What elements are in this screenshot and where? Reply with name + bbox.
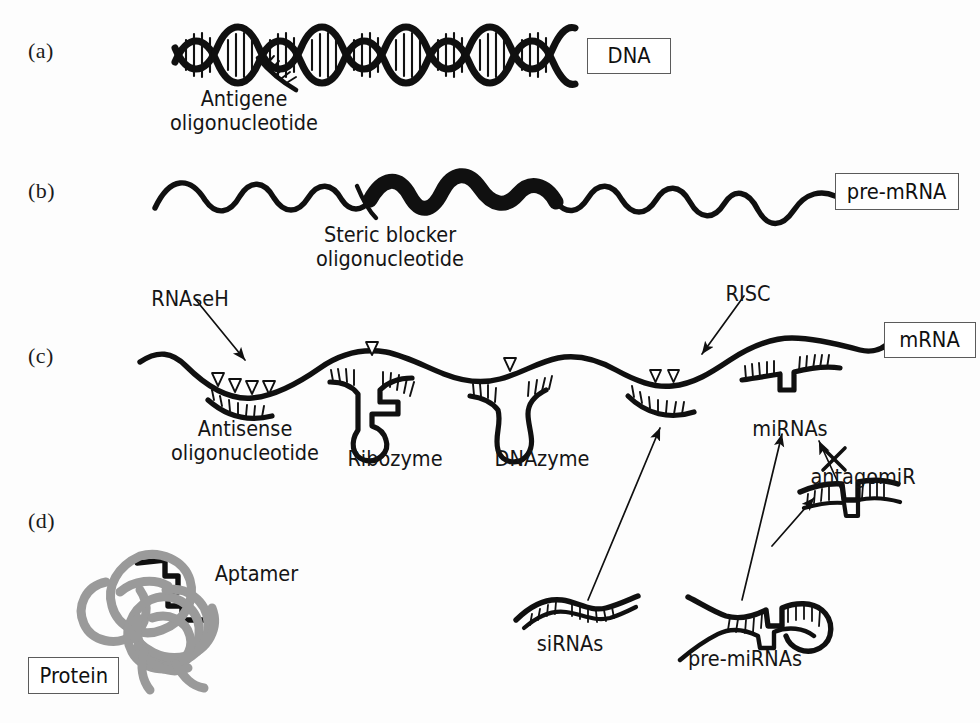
annotation-rnaseh: RNAseH [130,288,250,312]
annotation-aptamer-text: Aptamer [215,563,299,587]
target-box-protein: Protein [28,657,119,694]
annotation-steric-blocker-oligonucleotide: Steric blocker oligonucleotide [293,224,486,271]
panel-label-b: (b) [28,178,55,204]
annotation-ribozyme-text: Ribozyme [335,448,455,472]
annotation-antisense-line-2: oligonucleotide [148,442,341,466]
annotation-mirnas-text: miRNAs [733,418,847,442]
panel-label-c: (c) [28,343,54,369]
annotation-steric-blocker-line-1: Steric blocker [293,224,486,248]
target-box-protein-label: Protein [39,664,107,688]
annotation-antisense-line-1: Antisense [148,418,341,442]
target-box-dna: DNA [587,38,671,74]
protein-tangle-layer [0,0,980,723]
annotation-steric-blocker-line-2: oligonucleotide [293,248,486,272]
annotation-aptamer: Aptamer [215,563,299,587]
target-box-mrna-label: mRNA [900,328,961,352]
annotation-antagomir: antagomiR [796,466,930,490]
annotation-antigene-line-2: oligonucleotide [152,112,336,136]
figure-canvas: (a) (b) (c) (d) DNA pre-mRNA mRNA Protei… [0,0,980,723]
annotation-antigene-oligonucleotide: Antigene oligonucleotide [152,88,336,135]
target-box-pre-mrna-label: pre-mRNA [847,180,947,204]
annotation-dnazyme: DNAzyme [482,448,602,472]
annotation-antagomir-text: antagomiR [796,466,930,490]
annotation-antigene-line-1: Antigene [152,88,336,112]
annotation-risc: RISC [702,283,794,307]
annotation-dnazyme-text: DNAzyme [482,448,602,472]
annotation-pre-mirnas-text: pre-miRNAs [677,648,813,672]
target-box-mrna: mRNA [884,322,976,358]
annotation-pre-mirnas: pre-miRNAs [677,648,813,672]
annotation-sirnas: siRNAs [517,633,624,657]
annotation-risc-text: RISC [702,283,794,307]
annotation-ribozyme: Ribozyme [335,448,455,472]
annotation-rnaseh-text: RNAseH [130,288,250,312]
panel-label-d: (d) [28,508,55,534]
annotation-sirnas-text: siRNAs [517,633,624,657]
annotation-antisense-oligonucleotide: Antisense oligonucleotide [148,418,341,465]
panel-label-a: (a) [28,38,54,64]
annotation-mirnas: miRNAs [733,418,847,442]
target-box-pre-mrna: pre-mRNA [835,173,959,210]
target-box-dna-label: DNA [607,44,650,68]
